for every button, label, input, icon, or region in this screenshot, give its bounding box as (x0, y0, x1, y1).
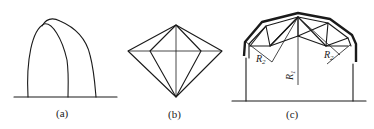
caption-c: (c) (286, 108, 299, 121)
bottom-chord (250, 36, 348, 46)
r1-label: R1 (284, 70, 297, 81)
panel-c: R2 R2 R1 (c) (232, 13, 366, 121)
panel-b: (b) (128, 25, 222, 121)
panel-a: (a) (14, 19, 117, 120)
r2-left-label: R2 (255, 53, 266, 66)
caption-a: (a) (56, 107, 69, 120)
figure-canvas: (a) (b) R2 R2 R1 (c) (0, 0, 374, 129)
caption-b: (b) (168, 108, 181, 121)
outer-diamond (128, 25, 222, 97)
outer-arch (42, 19, 96, 97)
inner-arch (28, 24, 69, 97)
r2-right-label: R2 (323, 49, 334, 62)
inner-diamond (150, 25, 201, 97)
